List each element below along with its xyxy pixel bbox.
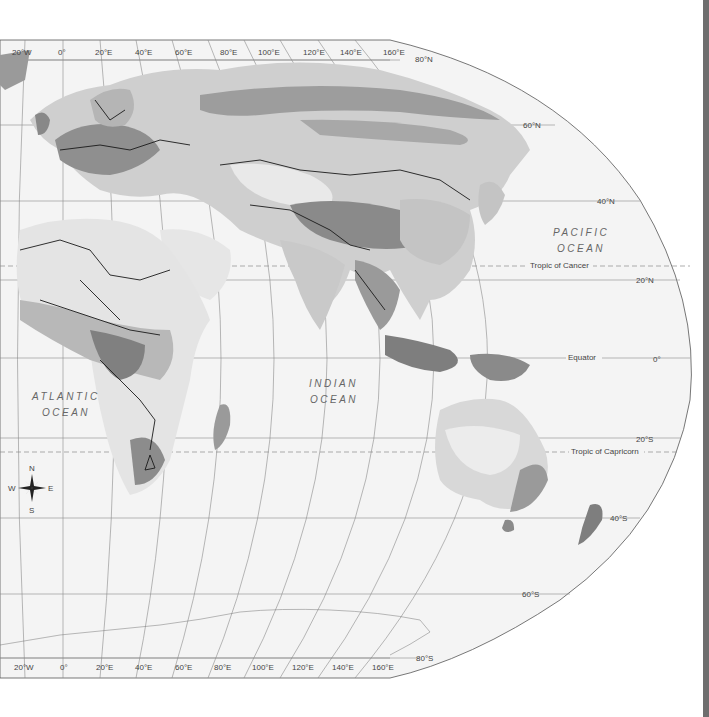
svg-text:W: W [8, 484, 16, 493]
svg-text:120°E: 120°E [292, 663, 314, 672]
page-edge-bar [703, 0, 709, 717]
svg-text:20°S: 20°S [636, 435, 653, 444]
svg-text:Tropic of Cancer: Tropic of Cancer [530, 261, 589, 270]
svg-text:140°E: 140°E [332, 663, 354, 672]
svg-text:ATLANTIC: ATLANTIC [31, 391, 100, 402]
svg-text:Tropic of Capricorn: Tropic of Capricorn [571, 447, 639, 456]
svg-text:40°E: 40°E [135, 663, 152, 672]
svg-text:160°E: 160°E [383, 48, 405, 57]
svg-text:40°S: 40°S [610, 514, 627, 523]
world-map: 20°W 0° 20°E 40°E 60°E 80°E 100°E 120°E … [0, 0, 709, 717]
svg-text:20°N: 20°N [636, 276, 654, 285]
svg-text:100°E: 100°E [258, 48, 280, 57]
svg-text:140°E: 140°E [340, 48, 362, 57]
svg-text:40°N: 40°N [597, 197, 615, 206]
svg-text:80°N: 80°N [415, 55, 433, 64]
svg-text:OCEAN: OCEAN [310, 394, 358, 405]
svg-text:80°S: 80°S [416, 654, 433, 663]
svg-text:160°E: 160°E [372, 663, 394, 672]
svg-text:40°E: 40°E [135, 48, 152, 57]
svg-text:Equator: Equator [568, 353, 596, 362]
svg-text:20°E: 20°E [95, 48, 112, 57]
svg-text:20°E: 20°E [96, 663, 113, 672]
svg-text:60°N: 60°N [523, 121, 541, 130]
svg-text:100°E: 100°E [252, 663, 274, 672]
svg-text:80°E: 80°E [220, 48, 237, 57]
svg-text:OCEAN: OCEAN [42, 407, 90, 418]
svg-text:20°W: 20°W [12, 48, 32, 57]
svg-text:0°: 0° [58, 48, 66, 57]
svg-text:0°: 0° [653, 355, 661, 364]
svg-text:OCEAN: OCEAN [557, 243, 605, 254]
svg-text:S: S [29, 506, 34, 515]
svg-text:20°W: 20°W [14, 663, 34, 672]
svg-text:120°E: 120°E [303, 48, 325, 57]
svg-text:E: E [48, 484, 53, 493]
svg-text:0°: 0° [60, 663, 68, 672]
svg-text:PACIFIC: PACIFIC [553, 227, 609, 238]
svg-text:60°E: 60°E [175, 48, 192, 57]
svg-text:80°E: 80°E [214, 663, 231, 672]
svg-text:60°E: 60°E [175, 663, 192, 672]
svg-text:60°S: 60°S [522, 590, 539, 599]
svg-text:INDIAN: INDIAN [309, 378, 358, 389]
svg-text:N: N [29, 464, 35, 473]
